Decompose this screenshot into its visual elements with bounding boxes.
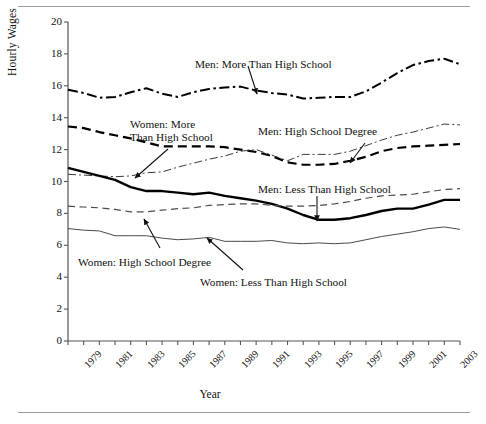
y-tick-label: 8 [40, 206, 62, 218]
y-tick-label: 10 [40, 175, 62, 187]
series-line [68, 227, 460, 244]
annotation-pointer [135, 149, 168, 178]
series-lines [68, 59, 460, 244]
annotation-line: Women: Less Than High School [200, 276, 347, 289]
annotation-line: Men: High School Degree [258, 125, 377, 138]
annotation-line: Than High School [130, 131, 213, 144]
y-tick-label: 12 [40, 143, 62, 155]
y-tick-label: 0 [40, 334, 62, 346]
annotation-men-high-school-degree: Men: High School Degree [258, 125, 377, 138]
annotation-pointer [144, 219, 160, 248]
y-tick-label: 20 [40, 15, 62, 27]
annotation-line: Women: High School Degree [78, 256, 211, 269]
annotation-men-less-than-high-school: Men: Less Than High School [258, 183, 391, 196]
y-axis-title: Hourly Wages [6, 0, 18, 112]
y-tick-label: 2 [40, 302, 62, 314]
annotation-pointer [207, 238, 243, 270]
y-tick-label: 16 [40, 79, 62, 91]
y-tick-label: 14 [40, 111, 62, 123]
annotation-women-high-school-degree: Women: High School Degree [78, 256, 211, 269]
y-tick-label: 18 [40, 47, 62, 59]
y-tick-label: 4 [40, 270, 62, 282]
annotation-line: Women: More [130, 118, 213, 131]
annotation-women-less-than-high-school: Women: Less Than High School [200, 276, 347, 289]
annotation-men-more-than-high-school: Men: More Than High School [195, 58, 332, 71]
annotation-line: Men: Less Than High School [258, 183, 391, 196]
annotation-women-more-than-high-school: Women: MoreThan High School [130, 118, 213, 143]
x-axis-title: Year [0, 388, 420, 400]
y-tick-label: 6 [40, 238, 62, 250]
annotation-line: Men: More Than High School [195, 58, 332, 71]
